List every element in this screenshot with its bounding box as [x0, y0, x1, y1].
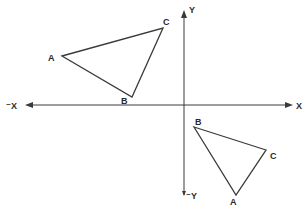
- y-pos-arrow-icon: [181, 10, 187, 18]
- x-axis: [25, 102, 293, 108]
- coordinate-diagram: ⁻X X Y ⁻Y A B C B C A: [0, 0, 305, 210]
- triangle-2-vertex-b: B: [195, 117, 202, 127]
- x-pos-label: X: [296, 101, 302, 111]
- x-neg-label: ⁻X: [6, 101, 17, 111]
- triangle-1-vertex-b: B: [121, 96, 128, 106]
- triangle-2-vertex-c: C: [270, 151, 277, 161]
- x-pos-arrow-icon: [285, 102, 293, 108]
- triangle-1: A B C: [48, 17, 170, 106]
- triangle-2: B C A: [194, 117, 277, 207]
- y-axis: [181, 10, 187, 196]
- y-neg-label: ⁻Y: [186, 191, 197, 201]
- triangle-2-vertex-a: A: [230, 197, 237, 207]
- x-neg-arrow-icon: [25, 102, 33, 108]
- triangle-1-vertex-a: A: [48, 53, 55, 63]
- triangle-1-vertex-c: C: [163, 17, 170, 27]
- y-pos-label: Y: [189, 5, 195, 15]
